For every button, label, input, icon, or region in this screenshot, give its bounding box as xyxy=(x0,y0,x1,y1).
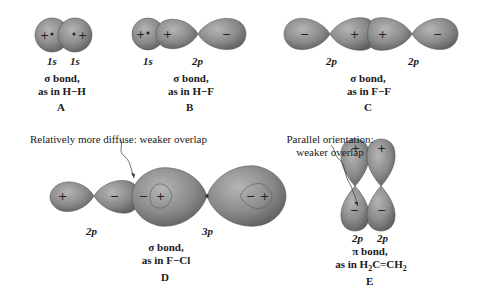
panel-c-example: as in F−F xyxy=(336,85,402,98)
svg-text:−: − xyxy=(222,28,231,41)
svg-text:−: − xyxy=(110,190,119,203)
svg-text:+: + xyxy=(260,190,269,203)
panel-e-example-sub2: 2 xyxy=(403,264,407,273)
panel-b-orbital-1: 1s xyxy=(143,55,153,67)
panel-e-annotation-line2: weaker overlap xyxy=(296,146,364,158)
svg-text:+: + xyxy=(58,190,67,203)
svg-text:+: + xyxy=(136,28,145,41)
svg-text:−: − xyxy=(139,190,148,203)
panel-e-example-mid: C=CH xyxy=(372,258,403,270)
svg-text:−: − xyxy=(246,190,255,203)
panel-e-orbital-1: 2p xyxy=(352,232,363,244)
panel-b-example: as in H−F xyxy=(158,85,224,98)
panel-e-annotation: Parallel orientation: weaker overlap xyxy=(270,133,390,159)
panel-d-bond-type: σ bond, xyxy=(138,241,194,254)
panel-a-orbital-1: 1s xyxy=(47,55,57,67)
panel-c-bond-type: σ bond, xyxy=(340,72,396,85)
panel-e-example: as in H2C=CH2 xyxy=(326,258,416,275)
svg-text:−: − xyxy=(433,28,442,41)
panel-e-letter: E xyxy=(366,275,373,287)
svg-text:+: + xyxy=(163,28,172,41)
svg-text:−: − xyxy=(377,204,386,217)
panel-e-example-prefix: as in H xyxy=(335,258,368,270)
panel-b-orbitals: + + − xyxy=(132,18,246,50)
panel-c-orbital-1: 2p xyxy=(326,55,337,67)
svg-text:+: + xyxy=(156,190,165,203)
panel-a-example: as in H−H xyxy=(30,85,94,98)
panel-d-annotation: Relatively more diffuse: weaker overlap xyxy=(30,133,207,146)
panel-b-orbital-2: 2p xyxy=(192,55,203,67)
panel-d-orbitals: + − − + − + xyxy=(50,140,286,226)
svg-text:+: + xyxy=(378,28,387,41)
panel-d-orbital-1: 2p xyxy=(86,225,97,237)
svg-text:+: + xyxy=(78,29,87,42)
panel-d-letter: D xyxy=(161,271,169,283)
panel-d-orbital-2: 3p xyxy=(202,225,213,237)
panel-a-letter: A xyxy=(57,101,65,113)
panel-b-letter: B xyxy=(186,101,193,113)
svg-text:+: + xyxy=(350,28,359,41)
panel-e-bond-type: π bond, xyxy=(342,245,398,258)
panel-a-orbitals: + + xyxy=(35,18,92,52)
svg-text:−: − xyxy=(300,28,309,41)
panel-e-annotation-line1: Parallel orientation: xyxy=(286,133,373,145)
panel-c-orbital-2: 2p xyxy=(408,55,419,67)
panel-b-bond-type: σ bond, xyxy=(163,72,219,85)
panel-a-orbital-2: 1s xyxy=(70,55,80,67)
panel-e-orbital-2: 2p xyxy=(377,232,388,244)
svg-text:+: + xyxy=(40,29,49,42)
panel-c-letter: C xyxy=(364,101,372,113)
panel-d-example: as in F−Cl xyxy=(132,254,200,267)
panel-c-orbitals: − + + − xyxy=(284,18,458,51)
panel-a-bond-type: σ bond, xyxy=(34,72,90,85)
